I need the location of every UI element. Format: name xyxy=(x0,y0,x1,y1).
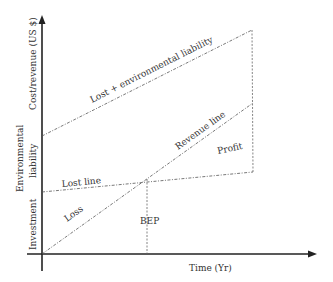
lost-plus-env-label: Lost + environmental liability xyxy=(88,34,215,105)
x-axis-label: Time (Yr) xyxy=(189,263,232,273)
profit-region-label: Profit xyxy=(216,141,243,156)
y-axis-arrow-icon xyxy=(39,15,46,24)
env-liability-label-line1: Environmental xyxy=(15,125,25,192)
loss-region-label: Loss xyxy=(62,203,85,223)
investment-label: Investment xyxy=(28,198,38,250)
right-boundary-line xyxy=(252,30,253,172)
x-axis-arrow-icon xyxy=(308,251,317,258)
env-liability-label-line2: liability xyxy=(28,143,38,178)
y-axis-label: Cost/revenue (US $) xyxy=(28,17,38,110)
bep-label: BEP xyxy=(140,216,159,226)
break-even-diagram: Lost + environmental liability Revenue l… xyxy=(0,0,333,282)
